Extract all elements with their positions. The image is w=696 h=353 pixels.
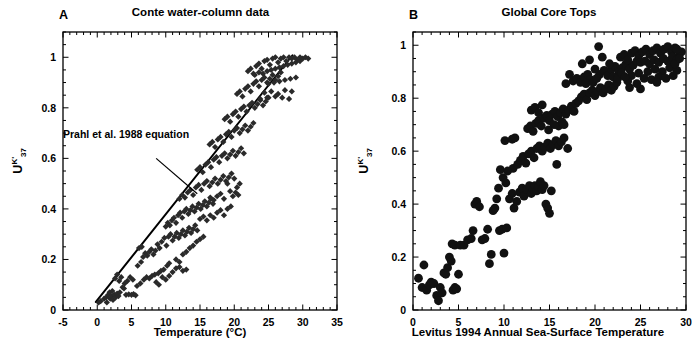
y-tick-label: 1 — [50, 51, 56, 63]
panel-b: B Global Core Tops UK'37 05101520253000.… — [348, 0, 696, 353]
y-tick-label: 0.2 — [391, 251, 406, 263]
y-tick-label: 0.6 — [391, 145, 406, 157]
annotation-leader-line — [156, 158, 197, 193]
y-tick-label: 0 — [400, 304, 406, 316]
y-tick-label: 0.4 — [41, 203, 56, 215]
panel-b-x-axis-label: Levitus 1994 Annual Sea-Surface Temperat… — [388, 326, 688, 338]
y-tick-label: 0.8 — [391, 92, 406, 104]
figure-root: A Conte water-column data UK'37 -5051015… — [0, 0, 696, 353]
panel-b-plot: 05101520253000.20.40.60.81 — [348, 0, 696, 353]
y-tick-label: 0.6 — [41, 152, 56, 164]
data-points — [414, 42, 686, 305]
y-tick-label: 0.4 — [391, 198, 406, 210]
panel-a-plot: -50510152025303500.20.40.60.81 — [0, 0, 348, 353]
y-tick-label: 0.2 — [41, 253, 56, 265]
y-tick-label: 0.8 — [41, 102, 56, 114]
y-tick-label: 0 — [50, 304, 56, 316]
y-tick-label: 1 — [400, 39, 406, 51]
panel-a: A Conte water-column data UK'37 -5051015… — [0, 0, 348, 353]
panel-a-x-axis-label: Temperature (°C) — [63, 326, 337, 338]
panel-a-annotation: Prahl et al. 1988 equation — [63, 128, 189, 140]
data-points — [96, 54, 312, 305]
